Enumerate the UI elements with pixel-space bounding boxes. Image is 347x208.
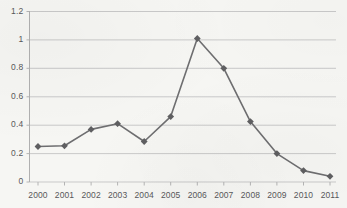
y-axis-tick-label: 1.2: [11, 6, 23, 16]
line-chart: 00.20.40.60.811.2 2000200120022003200420…: [0, 0, 347, 208]
x-axis-tick-label: 2010: [294, 190, 313, 200]
chart-plot-area: [0, 0, 347, 208]
x-axis-tick-label: 2001: [55, 190, 74, 200]
x-axis-tick-label: 2005: [161, 190, 180, 200]
data-point-marker: [327, 173, 334, 180]
x-axis-tick-label: 2002: [81, 190, 100, 200]
y-axis-tick-label: 0: [19, 176, 24, 186]
x-axis-tick-label: 2006: [188, 190, 207, 200]
x-axis-tick-marks: [38, 182, 330, 186]
gridlines: [30, 12, 337, 183]
y-axis-tick-label: 0.8: [11, 62, 23, 72]
x-axis-tick-label: 2007: [214, 190, 233, 200]
x-axis-tick-label: 2011: [321, 190, 340, 200]
x-axis-tick-label: 2000: [28, 190, 47, 200]
x-axis-tick-label: 2004: [135, 190, 154, 200]
data-point-marker: [35, 143, 42, 150]
x-axis-tick-label: 2008: [241, 190, 260, 200]
data-series-line: [38, 39, 330, 177]
data-point-markers: [35, 35, 334, 180]
x-axis-tick-label: 2009: [267, 190, 286, 200]
y-axis-tick-label: 1: [19, 34, 24, 44]
y-axis-tick-label: 0.6: [11, 91, 23, 101]
y-axis-tick-label: 0.2: [11, 148, 23, 158]
y-axis-tick-label: 0.4: [11, 119, 23, 129]
x-axis-tick-label: 2003: [108, 190, 127, 200]
